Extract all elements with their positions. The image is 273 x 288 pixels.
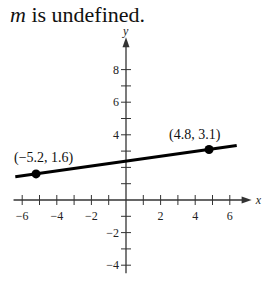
x-tick-label: −6 bbox=[16, 209, 29, 223]
x-tick-label: −2 bbox=[85, 209, 98, 223]
x-tick-label: 6 bbox=[227, 209, 233, 223]
x-tick-label: 2 bbox=[158, 209, 164, 223]
chart: xy−6−4−2246864−2−4(−5.2, 1.6)(4.8, 3.1) bbox=[0, 0, 273, 288]
point-label: (4.8, 3.1) bbox=[169, 127, 221, 143]
data-point bbox=[32, 169, 41, 178]
point-label: (−5.2, 1.6) bbox=[14, 150, 74, 166]
y-tick-label: −4 bbox=[106, 258, 119, 272]
x-tick-label: 4 bbox=[192, 209, 198, 223]
x-axis-arrow-icon bbox=[242, 197, 252, 204]
y-tick-label: 6 bbox=[113, 95, 119, 109]
data-point bbox=[205, 145, 214, 154]
y-tick-label: 8 bbox=[113, 63, 119, 77]
x-axis-label: x bbox=[255, 193, 262, 207]
y-tick-label: 4 bbox=[113, 128, 119, 142]
x-tick-label: −4 bbox=[50, 209, 63, 223]
y-axis-label: y bbox=[122, 24, 129, 38]
y-axis-arrow-icon bbox=[123, 37, 130, 47]
y-tick-label: −2 bbox=[106, 226, 119, 240]
